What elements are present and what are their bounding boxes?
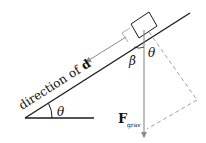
beta-label: β: [128, 54, 136, 68]
theta-base-label: θ: [57, 105, 65, 119]
dashed-parallel: [147, 100, 197, 129]
dashed-perp: [149, 32, 197, 100]
direction-label: direction of d: [16, 56, 94, 112]
right-angle-marker: [122, 28, 130, 42]
incline-line: [25, 13, 190, 118]
incline-diagram: direction of d θ β θ F grav: [0, 0, 206, 143]
beta-arc: [134, 47, 144, 48]
theta-arc: [49, 104, 53, 119]
theta-force-label: θ: [148, 46, 156, 60]
fgrav-subscript: grav: [127, 121, 141, 129]
